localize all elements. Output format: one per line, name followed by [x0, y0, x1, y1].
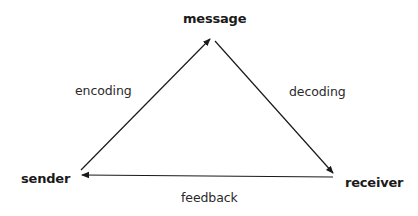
- decoding-arrow: [215, 41, 333, 173]
- node-sender: sender: [21, 172, 70, 185]
- node-receiver: receiver: [345, 176, 403, 189]
- node-message: message: [183, 12, 246, 25]
- communication-diagram: message sender receiver encoding decodin…: [0, 0, 418, 216]
- encoding-arrow: [81, 39, 210, 170]
- feedback-arrow: [82, 175, 333, 177]
- edge-label-encoding: encoding: [75, 85, 132, 98]
- edge-label-decoding: decoding: [289, 86, 346, 99]
- edge-label-feedback: feedback: [181, 192, 238, 205]
